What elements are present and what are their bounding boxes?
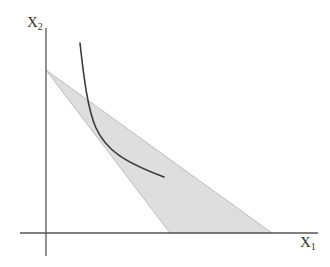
diagram-canvas (0, 0, 330, 267)
y-axis-label: X2 (27, 15, 43, 32)
x-axis-label: X1 (300, 235, 316, 252)
shaded-region (46, 70, 272, 233)
